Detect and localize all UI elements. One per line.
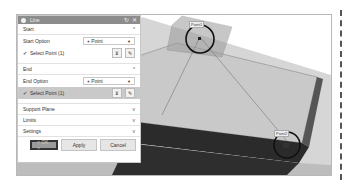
- dialog-title: Line: [30, 17, 121, 23]
- line-dialog: Line ↻ ✕ Start ^ Start Option + Point ▼ …: [17, 15, 141, 163]
- section-start-header[interactable]: Start ^: [18, 24, 140, 35]
- point-snap-icon[interactable]: ✎: [125, 48, 135, 58]
- dialog-titlebar[interactable]: Line ↻ ✕: [18, 16, 140, 24]
- start-option-row: Start Option + Point ▼: [18, 35, 140, 47]
- point-dialog-icon[interactable]: ⊻: [112, 48, 122, 58]
- chevron-up-icon: ^: [133, 26, 135, 32]
- end-option-select[interactable]: + Point ▼: [83, 77, 135, 85]
- point1-label: Point1: [189, 21, 204, 28]
- section-end-header[interactable]: End ^: [18, 64, 140, 75]
- reset-icon[interactable]: ↻: [124, 17, 129, 23]
- start-option-value: + Point: [87, 38, 127, 44]
- dashed-divider: [340, 10, 342, 180]
- dropdown-arrow-icon: ▼: [127, 39, 131, 44]
- end-select-point-row[interactable]: ✔ Select Point (1) ⊻ ✎: [18, 87, 140, 99]
- start-option-label: Start Option: [23, 38, 83, 44]
- ok-button[interactable]: < OK >: [30, 140, 58, 150]
- end-option-value: + Point: [87, 78, 127, 84]
- end-option-row: End Option + Point ▼: [18, 75, 140, 87]
- start-select-point-label: Select Point (1): [30, 50, 109, 56]
- section-support-plane-label: Support Plane: [23, 106, 133, 112]
- end-option-label: End Option: [23, 78, 83, 84]
- end-select-point-label: Select Point (1): [30, 90, 109, 96]
- point-dialog-icon[interactable]: ⊻: [112, 88, 122, 98]
- section-settings-label: Settings: [23, 128, 133, 134]
- dialog-button-bar: < OK > Apply Cancel: [18, 137, 140, 153]
- checkmark-icon: ✔: [23, 90, 27, 96]
- cancel-button[interactable]: Cancel: [100, 139, 136, 151]
- section-settings-header[interactable]: Settings v: [18, 126, 140, 137]
- checkmark-icon: ✔: [23, 50, 27, 56]
- start-option-select[interactable]: + Point ▼: [83, 37, 135, 45]
- close-icon[interactable]: ✕: [132, 17, 137, 23]
- apply-button[interactable]: Apply: [61, 139, 97, 151]
- gear-icon[interactable]: [21, 18, 26, 23]
- section-start-label: Start: [23, 26, 133, 32]
- section-end-label: End: [23, 66, 133, 72]
- point2-label: Point2: [274, 130, 289, 137]
- chevron-down-icon: v: [133, 106, 136, 112]
- start-select-point-row[interactable]: ✔ Select Point (1) ⊻ ✎: [18, 47, 140, 59]
- chevron-down-icon: v: [133, 117, 136, 123]
- chevron-down-icon: v: [133, 128, 136, 134]
- section-support-plane-header[interactable]: Support Plane v: [18, 104, 140, 115]
- section-limits-header[interactable]: Limits v: [18, 115, 140, 126]
- section-limits-label: Limits: [23, 117, 133, 123]
- chevron-up-icon: ^: [133, 66, 135, 72]
- dropdown-arrow-icon: ▼: [127, 79, 131, 84]
- point-snap-icon[interactable]: ✎: [125, 88, 135, 98]
